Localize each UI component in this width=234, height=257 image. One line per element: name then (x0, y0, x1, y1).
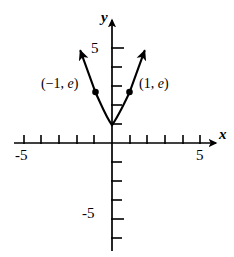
cartesian-plot (0, 0, 234, 257)
x-tick-label-5: 5 (196, 148, 204, 163)
annotation-left-point: (−1, e) (41, 77, 78, 91)
annotation-right-prefix: (1, (139, 76, 158, 91)
y-axis-label: y (101, 10, 108, 25)
x-axis-label: x (219, 127, 227, 142)
y-tick-label-5: 5 (91, 41, 99, 56)
y-axis-ticks-negative (111, 162, 124, 238)
curve-right-lower (112, 93, 130, 126)
x-tick-label-negative-5: -5 (15, 148, 28, 163)
graph-figure: y x 5 -5 5 -5 (−1, e) (1, e) (0, 0, 234, 257)
curve-left-lower (96, 93, 113, 126)
y-tick-label-negative-5: -5 (82, 206, 95, 221)
data-point-left (92, 89, 99, 96)
annotation-left-prefix: (−1, (41, 76, 68, 91)
y-axis-ticks-positive (111, 48, 124, 124)
annotation-right-suffix: ) (164, 76, 169, 91)
annotation-left-suffix: ) (74, 76, 79, 91)
data-point-right (126, 89, 133, 96)
curve-left-upper (81, 51, 96, 93)
annotation-right-point: (1, e) (139, 77, 169, 91)
